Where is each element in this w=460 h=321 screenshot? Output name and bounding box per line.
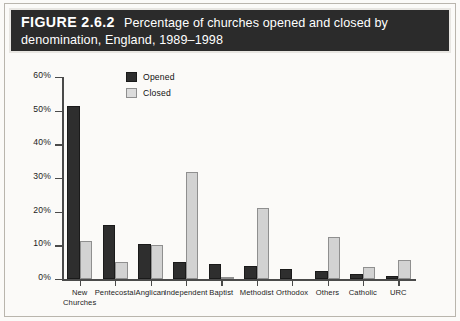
bar-opened [67, 106, 80, 279]
y-axis-tick: 60% [55, 77, 62, 78]
x-axis-tick [363, 280, 364, 286]
y-axis-tick-label: 0% [38, 272, 51, 282]
bar-closed [221, 277, 234, 279]
y-axis-tick: 0% [55, 279, 62, 280]
bar-opened [138, 244, 151, 279]
bar-closed [186, 172, 199, 279]
x-axis-tick [398, 280, 399, 286]
y-axis-tick: 50% [55, 111, 62, 112]
legend-swatch-closed-icon [126, 88, 137, 98]
x-axis-tick [257, 280, 258, 286]
bar-opened [173, 262, 186, 279]
bar-opened [280, 269, 293, 279]
bar-closed [363, 267, 376, 279]
figure-container: FIGURE 2.6.2Percentage of churches opene… [0, 0, 460, 321]
x-axis-category-label: URC [375, 288, 422, 298]
x-axis-tick [115, 280, 116, 286]
x-axis-tick [151, 280, 152, 286]
figure-title-banner: FIGURE 2.6.2Percentage of churches opene… [9, 8, 451, 53]
y-axis-tick-label: 20% [33, 205, 51, 215]
bar-closed [398, 260, 411, 279]
y-axis-tick-label: 10% [33, 238, 51, 248]
y-axis-tick: 30% [55, 178, 62, 179]
bar-opened [386, 276, 399, 279]
bar-opened [103, 225, 116, 279]
chart-plot-area: 0%10%20%30%40%50%60% NewChurchesPentecos… [9, 58, 451, 313]
bar-closed [328, 237, 341, 279]
y-axis-tick: 10% [55, 245, 62, 246]
x-axis-tick [186, 280, 187, 286]
x-axis-category-labels: NewChurchesPentecostalAnglicanIndependen… [62, 288, 416, 314]
figure-number-label: FIGURE 2.6.2 [21, 14, 115, 30]
y-axis-tick-label: 50% [33, 104, 51, 114]
x-axis-tick [221, 280, 222, 286]
legend-label-opened: Opened [143, 72, 175, 82]
chart-legend: Opened Closed [126, 70, 175, 102]
y-axis-tick-label: 40% [33, 137, 51, 147]
y-axis-tick: 20% [55, 212, 62, 213]
y-axis-tick: 40% [55, 144, 62, 145]
bar-closed [80, 241, 93, 279]
bar-opened [350, 274, 363, 279]
figure-title-line-1: FIGURE 2.6.2Percentage of churches opene… [21, 14, 439, 32]
bar-series-layer [62, 77, 416, 279]
y-axis-tick-label: 30% [33, 171, 51, 181]
x-axis-tick [328, 280, 329, 286]
bar-opened [209, 264, 222, 279]
y-axis-tick-label: 60% [33, 70, 51, 80]
legend-item-opened: Opened [126, 70, 175, 83]
figure-caption-line-1: Percentage of churches opened and closed… [124, 16, 388, 30]
figure-caption-line-2: denomination, England, 1989–1998 [21, 32, 439, 49]
x-axis-tick [80, 280, 81, 286]
legend-label-closed: Closed [143, 88, 171, 98]
legend-swatch-opened-icon [126, 72, 137, 82]
bar-closed [115, 262, 128, 279]
bar-closed [151, 245, 164, 279]
bar-opened [315, 271, 328, 279]
bar-closed [257, 208, 270, 279]
bar-opened [244, 266, 257, 279]
x-axis-tick [292, 280, 293, 286]
legend-item-closed: Closed [126, 86, 175, 99]
